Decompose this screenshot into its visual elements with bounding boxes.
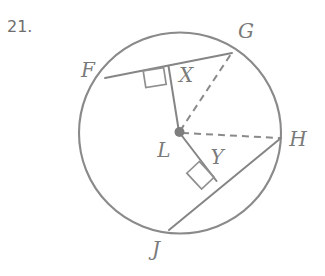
figure-page: 21. F G H J L X Y	[0, 0, 325, 276]
point-label-f: F	[80, 58, 96, 82]
radius-lh-dashed	[182, 133, 280, 138]
circle-geometry-figure: F G H J L X Y	[0, 0, 325, 276]
point-label-g: G	[238, 19, 254, 43]
point-label-x: X	[177, 63, 194, 87]
point-label-j: J	[148, 237, 161, 261]
point-label-l: L	[156, 138, 170, 162]
center-point-dot	[175, 127, 185, 137]
segment-lx	[169, 66, 180, 132]
point-label-y: Y	[210, 145, 225, 169]
chord-jh	[169, 138, 281, 230]
right-angle-mark-x	[143, 68, 166, 88]
point-label-h: H	[288, 127, 307, 151]
